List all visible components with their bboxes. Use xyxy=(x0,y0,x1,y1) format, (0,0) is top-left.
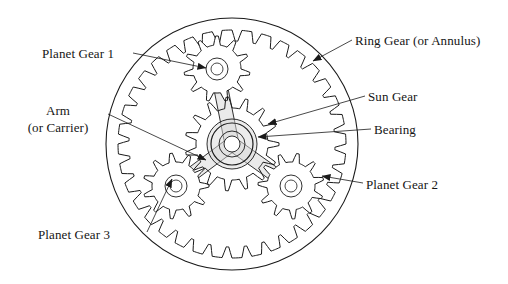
label-ring-gear: Ring Gear (or Annulus) xyxy=(355,33,480,48)
leader-ring xyxy=(313,40,352,61)
label-planet-gear-3: Planet Gear 3 xyxy=(38,227,110,242)
label-arm-line-1: Arm xyxy=(10,102,106,119)
planetary-gear-diagram: Planet Gear 1 Ring Gear (or Annulus) Arm… xyxy=(0,0,508,284)
label-sun-gear: Sun Gear xyxy=(368,89,418,104)
label-planet-gear-1: Planet Gear 1 xyxy=(42,46,114,61)
leader-bearing xyxy=(258,129,371,137)
leader-arm xyxy=(108,114,206,160)
label-planet-gear-2: Planet Gear 2 xyxy=(366,177,438,192)
planet-gear-1 xyxy=(184,36,250,101)
leader-sun xyxy=(268,96,365,124)
label-arm-carrier: Arm (or Carrier) xyxy=(10,102,106,136)
label-arm-line-2: (or Carrier) xyxy=(10,119,106,136)
label-bearing: Bearing xyxy=(374,122,416,137)
